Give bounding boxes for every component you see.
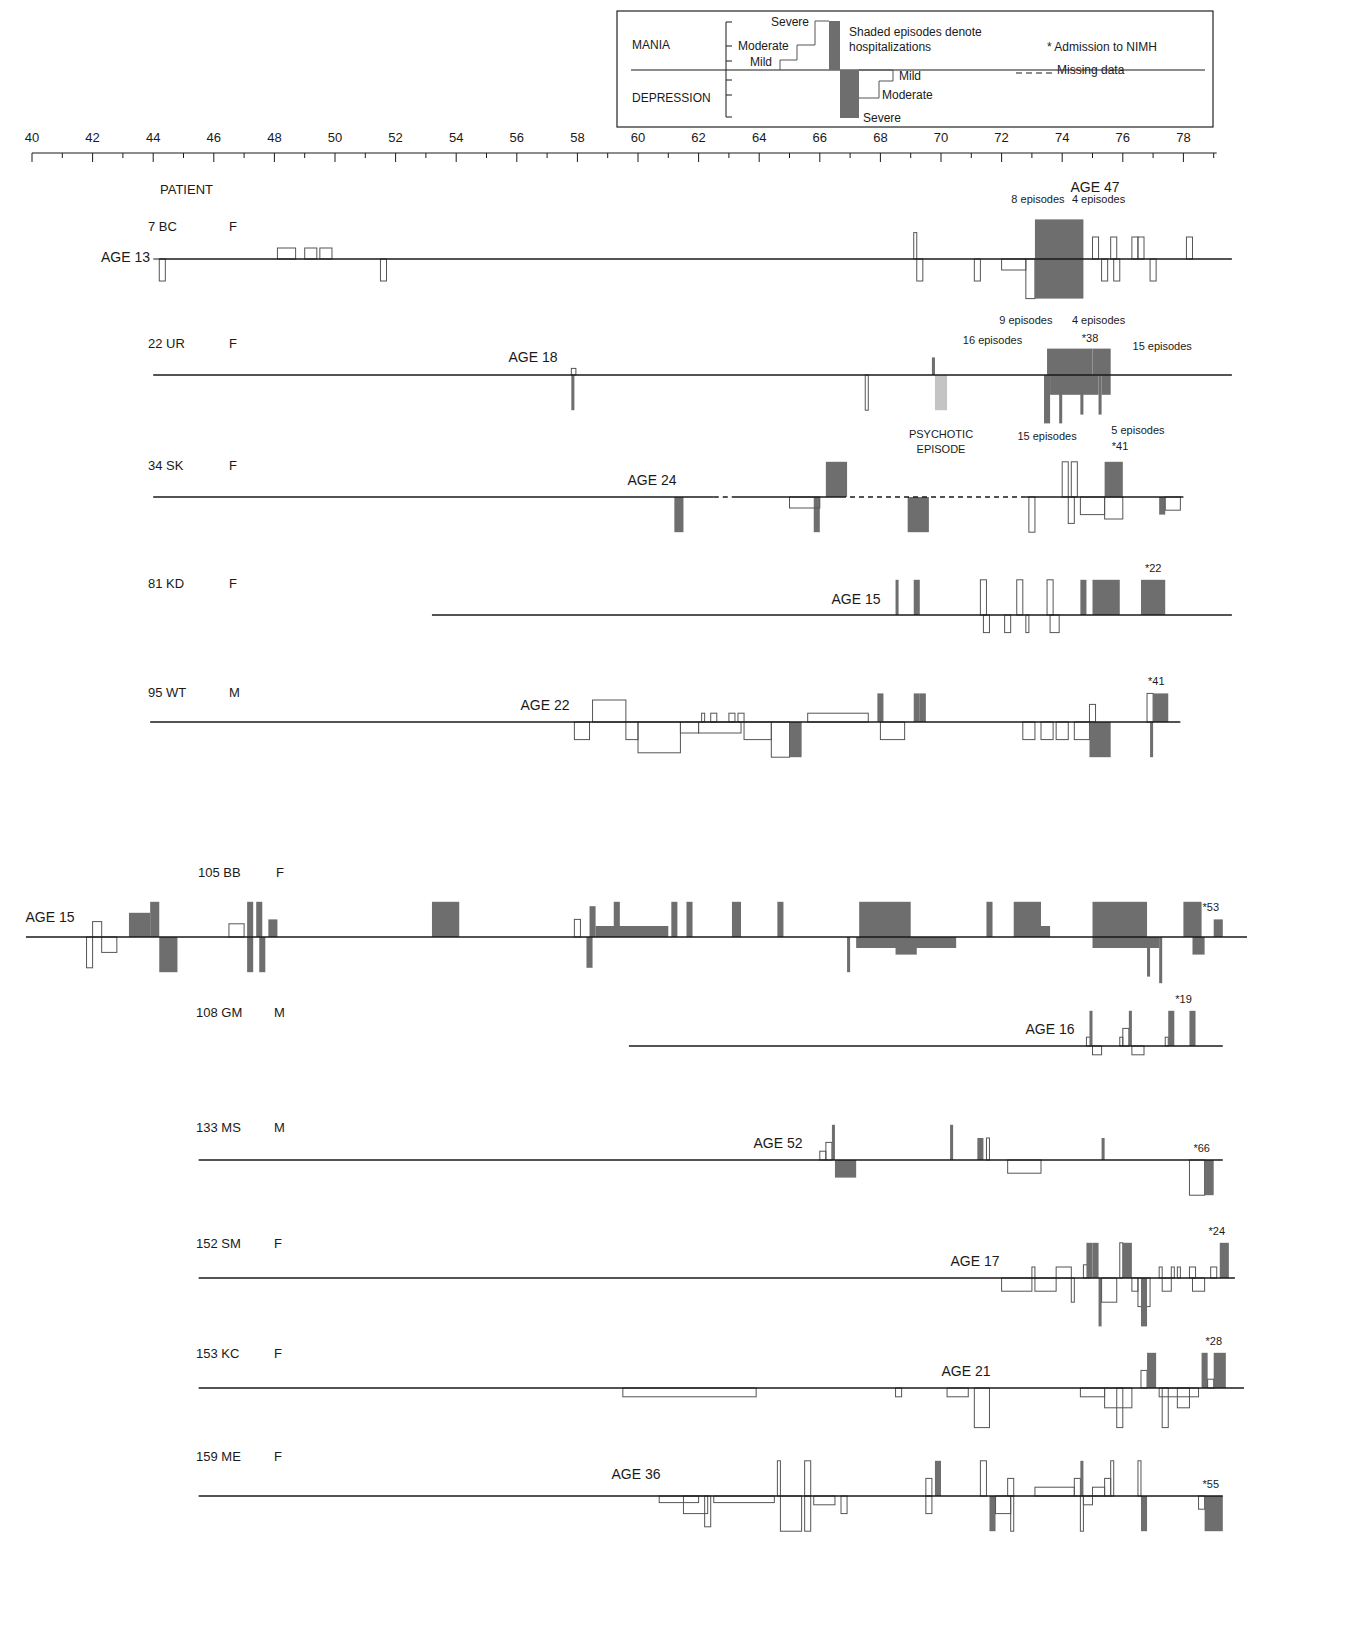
hospitalized-episode — [914, 693, 920, 722]
patient-id: 95 WT — [148, 685, 186, 700]
hospitalized-episode — [268, 919, 277, 937]
patient-row-108-gm: 108 GMMAGE 16*19 — [196, 993, 1223, 1055]
episode — [744, 722, 771, 740]
hospitalized-episode — [1141, 1496, 1147, 1531]
hospitalized-episode — [256, 902, 262, 937]
patient-row-105-bb: 105 BBFAGE 15*53 — [25, 865, 1247, 983]
hospitalized-episode — [1093, 349, 1111, 375]
episode — [1008, 1160, 1041, 1173]
hospitalized-episode — [826, 462, 847, 497]
hospitalized-episode — [674, 497, 683, 532]
episode — [1002, 259, 1026, 270]
episode — [320, 248, 332, 259]
episode — [1111, 237, 1117, 259]
legend-severe-depression: Severe — [863, 111, 901, 125]
episode — [1050, 615, 1059, 633]
episode — [1023, 722, 1035, 740]
legend-depression-label: DEPRESSION — [632, 91, 711, 105]
episode — [1189, 1160, 1204, 1195]
onset-age-label: AGE 36 — [611, 1466, 660, 1482]
hospitalized-episode — [732, 902, 741, 937]
episode — [1141, 1370, 1147, 1388]
hospitalized-episode — [1099, 375, 1102, 415]
episode — [659, 1496, 698, 1503]
hospitalized-episode — [1147, 1353, 1156, 1388]
hospitalized-episode — [586, 937, 592, 968]
episode — [1002, 1278, 1032, 1291]
episode — [1177, 1388, 1189, 1408]
episode — [1159, 1267, 1162, 1278]
hospitalized-episode — [1102, 375, 1111, 395]
hospitalized-episode — [1147, 937, 1150, 977]
patient-sex: F — [276, 865, 284, 880]
bipolar-life-chart: MANIADEPRESSIONSevereModerateMildMildMod… — [0, 0, 1361, 1643]
episode — [771, 722, 789, 757]
episode — [983, 615, 989, 633]
onset-age-label: AGE 15 — [25, 909, 74, 925]
episode — [820, 1151, 826, 1160]
tick-label-60: 60 — [631, 130, 645, 145]
onset-age-label: AGE 16 — [1025, 1021, 1074, 1037]
patient-row-133-ms: 133 MSMAGE 52*66 — [196, 1120, 1223, 1195]
hospitalized-episode — [1183, 902, 1201, 937]
episode — [711, 713, 717, 722]
episode — [1208, 1379, 1214, 1388]
episode — [1011, 1496, 1014, 1531]
patient-sex: F — [229, 219, 237, 234]
hospitalized-episode — [835, 1160, 856, 1178]
patient-id: 81 KD — [148, 576, 184, 591]
patient-sex: F — [229, 458, 237, 473]
patient-id: 105 BB — [198, 865, 241, 880]
hospitalized-episode — [590, 906, 596, 937]
episode — [880, 722, 904, 740]
episode — [805, 1461, 811, 1496]
hospitalized-episode — [1093, 1243, 1099, 1278]
hospitalized-episode — [950, 1125, 953, 1160]
hospitalized-episode — [1129, 1011, 1132, 1046]
patient-id: 152 SM — [196, 1236, 241, 1251]
episode — [1074, 722, 1089, 740]
onset-age-label: AGE 24 — [627, 472, 676, 488]
tick-label-78: 78 — [1176, 130, 1190, 145]
onset-age-label: AGE 17 — [950, 1253, 999, 1269]
hospitalized-episode — [1080, 1461, 1083, 1496]
legend-hospital-mania-bar — [829, 21, 840, 70]
patient-sex: M — [229, 685, 240, 700]
episode — [626, 722, 638, 740]
legend-missing-note: Missing data — [1057, 63, 1125, 77]
episode — [1165, 1037, 1168, 1046]
episode — [1138, 1461, 1141, 1496]
episode — [1105, 1478, 1111, 1496]
legend-mild-mania: Mild — [750, 55, 772, 69]
legend-mania-label: MANIA — [632, 38, 670, 52]
patient-header: PATIENT — [160, 182, 213, 197]
hospitalized-episode — [877, 693, 883, 722]
hospitalized-episode — [914, 580, 920, 615]
hospitalized-episode — [777, 902, 783, 937]
hospitalized-episode — [1123, 1243, 1132, 1278]
hospitalized-episode — [790, 722, 802, 757]
episode — [980, 580, 986, 615]
episode — [841, 1496, 847, 1514]
legend-severe-mania: Severe — [771, 15, 809, 29]
episode — [680, 722, 698, 733]
psychotic-episode-label: PSYCHOTIC — [909, 428, 973, 440]
hospitalized-episode — [1047, 349, 1092, 375]
tick-label-70: 70 — [934, 130, 948, 145]
hospitalized-episode — [935, 375, 947, 410]
onset-age-label: AGE 22 — [520, 697, 569, 713]
onset-age-label: AGE 18 — [508, 349, 557, 365]
psychotic-episode-label: EPISODE — [917, 443, 966, 455]
episode — [1093, 1046, 1102, 1055]
episode — [1111, 1461, 1114, 1496]
episode — [1056, 722, 1068, 740]
episode-count-annotation: 8 episodes — [1011, 193, 1065, 205]
episode — [1123, 1028, 1129, 1046]
episode — [914, 233, 917, 259]
episode — [1071, 462, 1077, 497]
episode — [1032, 1267, 1035, 1278]
patient-id: 153 KC — [196, 1346, 239, 1361]
hospitalized-episode — [1044, 375, 1050, 423]
episode — [926, 1478, 932, 1496]
patient-row-22-ur: 22 URFAGE 18*3816 episodes15 episodes15 … — [148, 332, 1232, 455]
